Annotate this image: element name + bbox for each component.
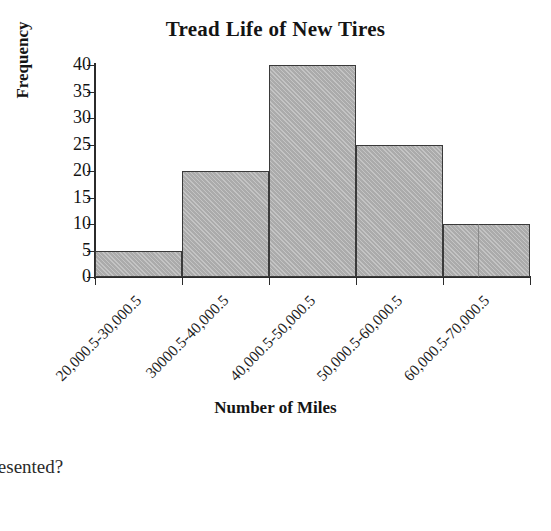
- histogram-bar: [182, 171, 269, 277]
- x-tick-label: 40,000.5-50,000.5: [226, 291, 318, 383]
- y-axis-title: Frequency: [13, 0, 33, 130]
- x-tick-mark: [182, 277, 183, 285]
- y-tick-label: 35: [73, 81, 91, 101]
- x-tick-mark: [443, 277, 444, 285]
- x-tick-mark: [95, 277, 96, 285]
- histogram-bar: [443, 224, 530, 277]
- x-tick-mark: [530, 277, 531, 285]
- y-tick-label: 25: [73, 134, 91, 154]
- x-tick-mark: [269, 277, 270, 285]
- y-tick-label: 40: [73, 54, 91, 74]
- x-tick-label: 20,000.5-30,000.5: [52, 291, 144, 383]
- y-tick-label: 5: [82, 240, 91, 260]
- x-tick-label: 60,000.5-70,000.5: [400, 291, 492, 383]
- plot-area: 0510152025303540 20,000.5-30,000.530000.…: [95, 65, 530, 277]
- histogram-bar: [269, 65, 356, 277]
- histogram-figure: Tread Life of New Tires Frequency 051015…: [0, 0, 551, 531]
- y-tick-label: 10: [73, 213, 91, 233]
- x-tick-mark: [356, 277, 357, 285]
- y-tick-label: 30: [73, 107, 91, 127]
- histogram-bar: [356, 145, 443, 278]
- y-tick-label: 15: [73, 187, 91, 207]
- histogram-bar: [95, 251, 182, 278]
- clipped-body-text: presented?: [0, 456, 63, 478]
- y-tick-label: 0: [82, 266, 91, 286]
- chart-title: Tread Life of New Tires: [0, 17, 551, 42]
- y-tick-label: 20: [73, 160, 91, 180]
- x-tick-label: 50,000.5-60,000.5: [313, 291, 405, 383]
- x-axis-title: Number of Miles: [0, 398, 551, 418]
- scan-artifact-line: [478, 224, 479, 277]
- x-tick-label: 30000.5-40,000.5: [142, 291, 232, 381]
